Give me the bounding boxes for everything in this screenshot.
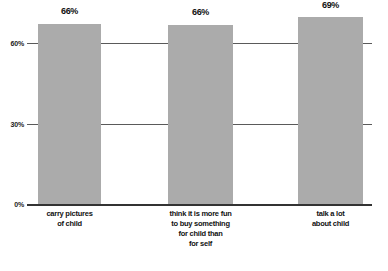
category-label-1-line-2: of child	[14, 219, 125, 229]
category-label-2-line-1: think it is more fun	[145, 209, 256, 219]
ytick-stub-30-left	[27, 124, 38, 125]
bar-talk-a-lot-about-child	[298, 17, 363, 204]
bar-carry-pictures-of-child	[38, 24, 101, 204]
ytick-stub-60-left	[27, 43, 38, 44]
value-label-bar-1: 66%	[38, 6, 101, 16]
bar-more-fun-to-buy-for-child	[168, 25, 233, 204]
ytick-label-30: 30%	[0, 121, 24, 128]
category-label-3: talk a lot about child	[275, 209, 386, 229]
axis-baseline	[27, 204, 372, 206]
category-label-2-line-2: to buy something	[145, 219, 256, 229]
category-label-3-line-1: talk a lot	[275, 209, 386, 219]
gridline-30-gap-2	[233, 124, 298, 125]
ytick-label-0: 0%	[0, 201, 24, 208]
category-label-2-line-3: for child than	[145, 229, 256, 239]
ytick-stub-60-right	[363, 43, 372, 44]
bar-chart: 60% 30% 0% 66% 66% 69% carry pictures of…	[0, 0, 388, 271]
category-label-2: think it is more fun to buy something fo…	[145, 209, 256, 249]
gridline-30-gap-1	[101, 124, 168, 125]
plot-area: 60% 30% 0% 66% 66% 69% carry pictures of…	[0, 0, 388, 271]
category-label-3-line-2: about child	[275, 219, 386, 229]
category-label-1-line-1: carry pictures	[14, 209, 125, 219]
category-label-1: carry pictures of child	[14, 209, 125, 229]
gridline-60-gap-1	[101, 43, 168, 44]
value-label-bar-3: 69%	[298, 0, 363, 10]
gridline-60-gap-2	[233, 43, 298, 44]
category-label-2-line-4: for self	[145, 239, 256, 249]
value-label-bar-2: 66%	[168, 7, 233, 17]
ytick-label-60: 60%	[0, 40, 24, 47]
ytick-stub-30-right	[363, 124, 372, 125]
